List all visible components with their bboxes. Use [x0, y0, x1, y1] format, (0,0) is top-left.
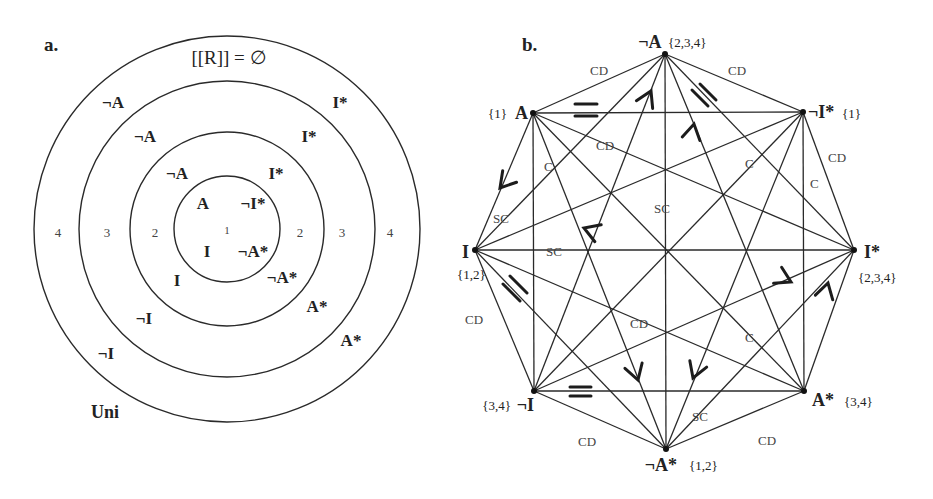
vertex-label-not-A-star: ¬A* — [645, 455, 677, 475]
edge-label-c: C — [810, 176, 819, 191]
vertex-label-not-I: ¬I — [517, 395, 534, 415]
vertex-label-not-A: ¬A — [638, 32, 661, 52]
vertex-set-I: {1,2} — [457, 267, 486, 282]
vertex-set-not-I-star: {1} — [842, 106, 861, 121]
panel-b-letter: b. — [522, 34, 537, 55]
edge-Istar-A — [533, 113, 854, 250]
vertex-dot-negAstar — [663, 446, 669, 452]
edge-negA-negI — [534, 54, 665, 391]
label-not-I-star: ¬I* — [241, 194, 266, 213]
vertex-label-I: I — [462, 242, 469, 262]
edge-label-cd: CD — [828, 150, 846, 165]
vertex-set-not-A-star: {1,2} — [689, 458, 718, 473]
vertex-set-A: {1} — [488, 106, 507, 121]
figure-canvas: a. [[R]] = ∅ 4 3 2 1 2 3 4 A ¬I* I ¬A* ¬… — [0, 0, 933, 499]
panel-a: a. [[R]] = ∅ 4 3 2 1 2 3 4 A ¬I* I ¬A* ¬… — [34, 34, 420, 422]
panel-b: b. ¬A {2,3,4} ¬I* {1} I* {2,3,4} A* {3,4… — [457, 32, 896, 475]
ring-number: 3 — [104, 225, 111, 240]
ring-number: 4 — [55, 225, 62, 240]
edge-label-sc: SC — [493, 211, 509, 226]
equivalence-mark-icon — [503, 276, 527, 301]
vertex-dot-negI — [531, 388, 537, 394]
label-not-A-star: ¬A* — [238, 242, 268, 261]
edge-negIstar-negAstar — [666, 112, 803, 449]
edge-label-cd: CD — [630, 316, 648, 331]
edge-label-cd: CD — [596, 138, 614, 153]
label-A: A — [197, 194, 210, 213]
subaltern-arrow-icon — [682, 124, 700, 140]
vertex-dot-negA — [662, 51, 668, 57]
label-I-star: I* — [301, 127, 316, 146]
vertex-dot-negIstar — [800, 109, 806, 115]
edge-label-sc: SC — [654, 201, 670, 216]
edge-label-c: C — [745, 330, 754, 345]
vertex-label-A: A — [515, 103, 528, 123]
vertex-dot-A — [530, 110, 536, 116]
vertex-dot-Istar — [851, 247, 857, 253]
vertex-label-A-star: A* — [812, 390, 834, 410]
edge-negAstar-I — [475, 250, 666, 449]
label-A-star: A* — [307, 297, 328, 316]
ring-number: 4 — [387, 225, 394, 240]
edge-negIstar-Astar — [803, 112, 804, 391]
vertex-label-not-I-star: ¬I* — [808, 102, 834, 122]
label-not-A: ¬A — [166, 164, 189, 183]
label-I-star: I* — [332, 93, 347, 112]
ring-number: 2 — [297, 225, 304, 240]
edge-label-cd: CD — [590, 63, 608, 78]
vertex-dot-Astar — [801, 388, 807, 394]
edge-label-cd: CD — [465, 312, 483, 327]
vertex-set-A-star: {3,4} — [844, 394, 873, 409]
equivalence-mark-icon — [575, 104, 597, 116]
panel-a-letter: a. — [44, 34, 58, 55]
label-I-star: I* — [268, 164, 283, 183]
label-not-I: ¬I — [98, 344, 115, 363]
edge-label-cd: CD — [758, 433, 776, 448]
vertex-label-I-star: I* — [864, 242, 880, 262]
ring-number: 1 — [224, 224, 230, 236]
edge-label-cd: CD — [578, 434, 596, 449]
edge-label-sc: SC — [692, 409, 708, 424]
universe-label: Uni — [91, 402, 119, 422]
vertex-set-not-I: {3,4} — [482, 398, 511, 413]
edge-Istar-Astar — [804, 250, 854, 391]
edge-label-sc: SC — [546, 244, 562, 259]
edge-Istar-negI — [534, 250, 854, 391]
label-I: I — [174, 271, 181, 290]
label-not-A: ¬A — [102, 93, 125, 112]
subaltern-arrow-icon — [584, 225, 601, 242]
edge-negA-negAstar — [665, 54, 666, 449]
label-I: I — [204, 242, 211, 261]
edge-negI-A — [533, 113, 534, 391]
edge-negAstar-A — [533, 113, 666, 449]
ring-number: 3 — [339, 225, 346, 240]
label-not-A: ¬A — [134, 127, 157, 146]
vertex-set-I-star: {2,3,4} — [858, 270, 896, 285]
label-A-star: A* — [341, 331, 362, 350]
edge-label-c: C — [544, 159, 553, 174]
label-not-A-star: ¬A* — [267, 268, 297, 287]
subaltern-arrow-icon — [815, 283, 832, 300]
empty-extension-label: [[R]] = ∅ — [191, 47, 266, 68]
edge-label-cd: CD — [728, 63, 746, 78]
ring-number: 2 — [152, 225, 159, 240]
vertex-set-not-A: {2,3,4} — [668, 35, 706, 50]
edge-negIstar-A — [533, 112, 803, 113]
edge-label-c: C — [745, 156, 754, 171]
label-not-I: ¬I — [136, 309, 153, 328]
vertex-dot-I — [472, 247, 478, 253]
